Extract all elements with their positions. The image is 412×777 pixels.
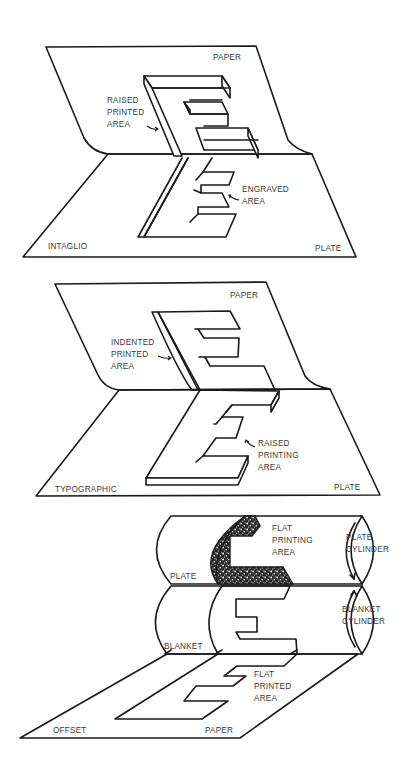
engraved-e <box>138 158 236 237</box>
label-blanket-cylinder-1: BLANKET <box>342 605 381 614</box>
arrow-indented-icon <box>158 356 171 360</box>
label-plate: PLATE <box>315 244 342 253</box>
label-plate-cylinder-1: PLATE <box>346 533 373 542</box>
raised-printed-e <box>144 76 258 158</box>
paper-sheet <box>55 282 330 390</box>
label-paper: PAPER <box>213 53 241 62</box>
label-plate-cylinder-2: CYLINDER <box>346 545 389 554</box>
label-indented-3: AREA <box>111 362 134 371</box>
label-engraved-2: AREA <box>242 197 265 206</box>
label-flat-printing-1: FLAT <box>272 524 292 533</box>
label-raised-2: PRINTING <box>258 451 299 460</box>
intaglio-panel: PAPER RAISED PRINTED AREA ENGRAVED AREA … <box>23 46 356 257</box>
label-engraved-1: ENGRAVED <box>242 185 289 194</box>
label-plate: PLATE <box>334 483 361 492</box>
label-paper: PAPER <box>205 726 233 735</box>
label-paper: PAPER <box>230 291 258 300</box>
label-raised-1: RAISED <box>107 96 139 105</box>
arrow-engraved-icon <box>229 195 239 200</box>
panel-title-intaglio: INTAGLIO <box>48 242 87 251</box>
label-indented-2: PRINTED <box>111 350 148 359</box>
arrow-raised-icon <box>245 440 255 447</box>
panel-title-offset: OFFSET <box>53 726 87 735</box>
offset-panel: FLAT PRINTING AREA PLATE CYLINDER PLATE … <box>20 516 389 738</box>
label-indented-1: INDENTED <box>111 338 154 347</box>
label-plate: PLATE <box>170 572 197 581</box>
blanket-e <box>218 586 297 654</box>
label-raised-2: PRINTED <box>107 108 144 117</box>
label-flat-printed-3: AREA <box>254 694 277 703</box>
label-raised-3: AREA <box>258 463 281 472</box>
typographic-panel: PAPER INDENTED PRINTED AREA RAISED PRINT… <box>36 282 380 496</box>
label-blanket-cylinder-2: CYLINDER <box>342 617 385 626</box>
label-flat-printed-1: FLAT <box>254 670 274 679</box>
label-raised-3: AREA <box>107 120 130 129</box>
label-blanket: BLANKET <box>164 642 203 651</box>
printing-methods-diagram: PAPER RAISED PRINTED AREA ENGRAVED AREA … <box>0 0 412 777</box>
panel-title-typographic: TYPOGRAPHIC <box>55 485 117 494</box>
arrow-raised-icon <box>147 126 158 131</box>
label-raised-1: RAISED <box>258 439 290 448</box>
indented-printed-e <box>152 311 275 390</box>
label-flat-printing-3: AREA <box>272 548 295 557</box>
label-flat-printing-2: PRINTING <box>272 536 313 545</box>
paper-sheet <box>46 46 312 154</box>
label-flat-printed-2: PRINTED <box>254 682 291 691</box>
